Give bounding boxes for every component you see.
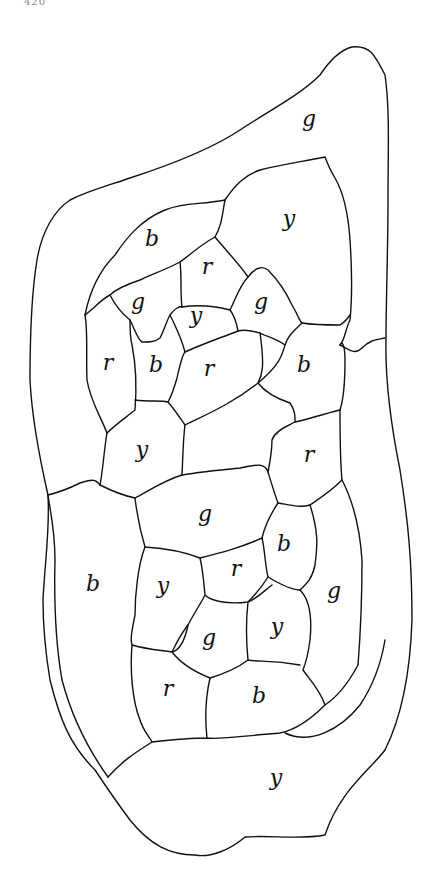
border-left-divider — [48, 480, 100, 495]
border-top-y-inner — [340, 338, 385, 351]
region-label: y — [189, 303, 203, 328]
border-y3-r5 — [131, 547, 268, 652]
border-r1 — [180, 237, 248, 310]
region-borders — [30, 47, 412, 856]
region-label: g — [131, 289, 145, 314]
border-y1 — [170, 310, 238, 352]
region-label: g — [254, 289, 268, 314]
border-upper-right — [302, 315, 350, 325]
region-label: g — [327, 578, 341, 603]
border-left-b — [48, 495, 108, 777]
region-label: y — [270, 614, 284, 639]
region-label: y — [135, 437, 149, 462]
region-label: b — [149, 352, 163, 377]
region-label: y — [282, 206, 296, 231]
region-label: g — [198, 501, 212, 526]
region-labels: g y b r g y g r b r b y r g b b y r g g … — [86, 106, 341, 790]
region-label: g — [302, 106, 316, 131]
border-center — [182, 422, 295, 475]
outer-boundary — [30, 47, 412, 856]
region-label: b — [252, 683, 266, 708]
border-g2 — [238, 268, 302, 345]
region-label: r — [163, 676, 175, 701]
region-label: r — [103, 350, 115, 375]
border-r3 — [168, 333, 263, 425]
region-label: r — [231, 556, 243, 581]
region-label: r — [204, 356, 216, 381]
region-label: g — [202, 625, 216, 650]
border-r6-b4 — [131, 645, 325, 742]
region-label: y — [269, 765, 283, 790]
region-label: r — [202, 254, 214, 279]
region-label: b — [145, 226, 159, 251]
region-label: y — [156, 573, 170, 598]
region-label: r — [304, 442, 316, 467]
region-label: b — [277, 531, 291, 556]
region-label: b — [86, 571, 100, 596]
map-figure: g y b r g y g r b r b y r g b b y r g g … — [0, 0, 434, 889]
region-label: b — [297, 352, 311, 377]
border-top-y — [225, 157, 352, 345]
